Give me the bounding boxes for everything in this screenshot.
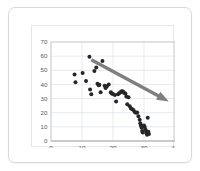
scatter-point[interactable] bbox=[146, 116, 150, 120]
x-axis-tick-labels: 010203040 bbox=[49, 144, 175, 149]
y-axis-tick-labels: 010203040506070 bbox=[41, 38, 48, 144]
x-axis-tick-label: 0 bbox=[49, 144, 53, 149]
y-axis-tick-label: 40 bbox=[41, 81, 48, 88]
scatter-point[interactable] bbox=[73, 73, 77, 77]
y-axis-tick-label: 50 bbox=[41, 66, 48, 73]
scatter-chart[interactable]: 010203040506070 010203040 bbox=[32, 26, 175, 148]
scatter-point[interactable] bbox=[73, 80, 77, 84]
scatter-point[interactable] bbox=[97, 83, 101, 87]
y-axis-tick-label: 20 bbox=[41, 109, 48, 116]
scatter-point[interactable] bbox=[107, 82, 111, 86]
trend-arrow-head bbox=[156, 92, 169, 102]
scatter-point[interactable] bbox=[136, 114, 140, 118]
scatter-point[interactable] bbox=[92, 69, 96, 73]
scatter-point[interactable] bbox=[135, 110, 139, 114]
y-axis-tick-label: 30 bbox=[41, 95, 48, 102]
scatter-point[interactable] bbox=[114, 99, 118, 103]
y-axis-tick-label: 70 bbox=[41, 38, 48, 45]
y-axis-tick-label: 10 bbox=[41, 123, 48, 130]
x-axis-tick-label: 20 bbox=[110, 144, 117, 149]
chart-frame: 010203040506070 010203040 bbox=[31, 25, 174, 147]
slide-card: 010203040506070 010203040 bbox=[8, 7, 192, 163]
annotations-group bbox=[91, 60, 169, 102]
scatter-point[interactable] bbox=[127, 95, 131, 99]
x-axis-tick-label: 30 bbox=[141, 144, 148, 149]
y-axis-tick-label: 0 bbox=[44, 137, 48, 144]
scatter-point[interactable] bbox=[100, 59, 104, 63]
scatter-point[interactable] bbox=[87, 55, 91, 59]
scatter-point[interactable] bbox=[99, 90, 103, 94]
scatter-point[interactable] bbox=[81, 71, 85, 75]
x-axis-tick-label: 10 bbox=[79, 144, 86, 149]
scatter-point[interactable] bbox=[84, 79, 88, 83]
scatter-point[interactable] bbox=[138, 118, 142, 122]
gridlines-group bbox=[51, 42, 175, 141]
x-axis-tick-label: 40 bbox=[172, 144, 175, 149]
scatter-point[interactable] bbox=[147, 132, 151, 136]
scatter-points-group[interactable] bbox=[73, 55, 151, 137]
scatter-point[interactable] bbox=[89, 92, 93, 96]
scatter-point[interactable] bbox=[88, 87, 92, 91]
y-axis-tick-label: 60 bbox=[41, 52, 48, 59]
scatter-point[interactable] bbox=[94, 65, 98, 69]
